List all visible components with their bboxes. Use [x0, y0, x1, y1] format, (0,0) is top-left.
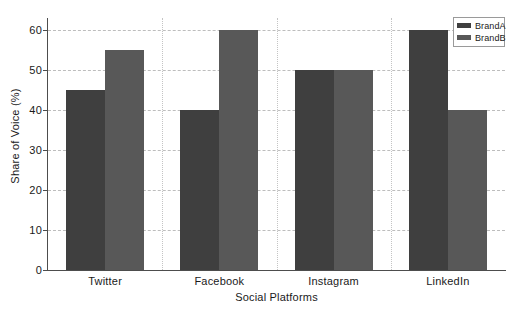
bar: [105, 50, 144, 270]
y-axis-tick-label: 60: [4, 25, 42, 36]
y-axis-tick-mark: [43, 70, 47, 71]
bar: [448, 110, 487, 270]
legend-swatch-icon: [457, 23, 471, 28]
bar-chart-figure: 0102030405060 TwitterFacebookInstagramLi…: [0, 0, 522, 315]
x-axis-tick-label: LinkedIn: [398, 275, 498, 287]
bar: [295, 70, 334, 270]
y-axis-tick-mark: [43, 30, 47, 31]
bar: [334, 70, 373, 270]
legend-label: BrandA: [475, 21, 506, 31]
legend-item[interactable]: BrandA: [457, 20, 501, 31]
x-axis-tick-label: Instagram: [284, 275, 384, 287]
y-axis-tick-mark: [43, 150, 47, 151]
y-axis-title: Share of Voice (%): [9, 61, 21, 211]
legend-swatch-icon: [457, 35, 471, 40]
y-axis-tick-mark: [43, 270, 47, 271]
y-axis-tick-labels: 0102030405060: [0, 0, 42, 315]
gridline-vertical: [391, 18, 392, 270]
bar: [409, 30, 448, 270]
y-axis-tick-label: 0: [4, 265, 42, 276]
plot-area: [48, 18, 505, 270]
x-axis-spine: [47, 270, 506, 271]
y-axis-tick-mark: [43, 110, 47, 111]
bar: [219, 30, 258, 270]
y-axis-tick-label: 10: [4, 225, 42, 236]
x-axis-tick-label: Twitter: [55, 275, 155, 287]
legend-item[interactable]: BrandB: [457, 32, 501, 43]
legend-label: BrandB: [475, 33, 506, 43]
legend: BrandABrandB: [453, 17, 505, 47]
y-axis-tick-mark: [43, 190, 47, 191]
bar: [180, 110, 219, 270]
gridline-vertical: [277, 18, 278, 270]
x-axis-title: Social Platforms: [48, 291, 505, 303]
x-axis-tick-label: Facebook: [169, 275, 269, 287]
gridline-vertical: [162, 18, 163, 270]
bar: [66, 90, 105, 270]
y-axis-tick-mark: [43, 230, 47, 231]
